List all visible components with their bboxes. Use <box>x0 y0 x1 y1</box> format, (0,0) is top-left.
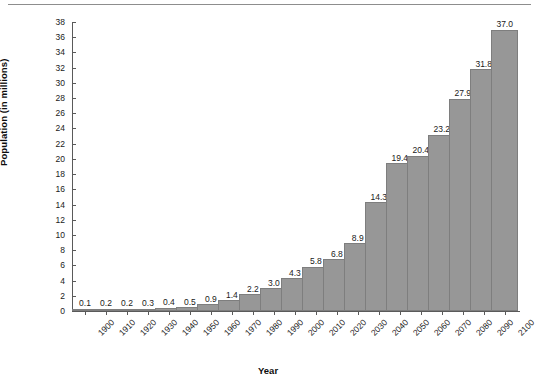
y-axis-tick-label: 32 <box>56 63 72 72</box>
x-axis-tick-mark <box>379 311 380 315</box>
bar-value-label: 14.3 <box>370 193 387 202</box>
x-axis-tick-label: 2080 <box>474 318 493 337</box>
x-axis-tick-mark <box>505 311 506 315</box>
y-axis-tick-mark <box>72 68 76 69</box>
x-axis-tick-label: 2060 <box>432 318 451 337</box>
x-axis-tick-label: 2020 <box>348 318 367 337</box>
x-axis-tick-label: 1940 <box>180 318 199 337</box>
bar-value-label: 0.9 <box>205 295 217 304</box>
y-axis-tick-label: 4 <box>60 276 72 285</box>
bar-value-label: 31.8 <box>475 60 492 69</box>
bar-value-label: 20.4 <box>412 146 429 155</box>
y-axis-tick-label: 28 <box>56 94 72 103</box>
x-axis-tick-mark <box>337 311 338 315</box>
y-axis-tick-label: 22 <box>56 139 72 148</box>
y-axis-tick-label: 18 <box>56 170 72 179</box>
x-axis-tick-mark <box>358 311 359 315</box>
x-axis-tick-mark <box>253 311 254 315</box>
x-axis-tick-label: 2090 <box>495 318 514 337</box>
y-axis-tick-label: 12 <box>56 215 72 224</box>
y-axis-tick-label: 14 <box>56 200 72 209</box>
x-axis-tick-mark <box>85 311 86 315</box>
y-axis-tick-mark <box>72 220 76 221</box>
y-axis-tick-mark <box>72 235 76 236</box>
x-axis-tick-label: 1990 <box>285 318 304 337</box>
bar-value-label: 0.2 <box>100 299 112 308</box>
y-axis-tick-mark <box>72 174 76 175</box>
bar-value-label: 23.2 <box>433 125 450 134</box>
y-axis-tick-mark <box>72 296 76 297</box>
bar-value-label: 0.4 <box>163 298 175 307</box>
x-axis-tick-mark <box>484 311 485 315</box>
y-axis-tick-mark <box>72 37 76 38</box>
x-axis-tick-mark <box>463 311 464 315</box>
y-axis-tick-mark <box>72 281 76 282</box>
bar-value-label: 0.1 <box>79 299 91 308</box>
bar-value-label: 0.5 <box>184 298 196 307</box>
top-divider-rule <box>8 4 531 5</box>
x-axis-tick-mark <box>316 311 317 315</box>
bar-chart-figure: Population (in millions) Year 0246810121… <box>0 0 539 387</box>
x-axis-tick-mark <box>148 311 149 315</box>
y-axis-tick-label: 10 <box>56 231 72 240</box>
x-axis-tick-mark <box>190 311 191 315</box>
y-axis-tick-mark <box>72 159 76 160</box>
y-axis-tick-mark <box>72 250 76 251</box>
bar-value-label: 1.4 <box>226 291 238 300</box>
x-axis-tick-label: 1910 <box>118 318 137 337</box>
y-axis-tick-label: 20 <box>56 155 72 164</box>
bar-value-label: 3.0 <box>268 279 280 288</box>
x-axis-tick-mark <box>232 311 233 315</box>
y-axis-tick-label: 6 <box>60 261 72 270</box>
bar-value-label: 8.9 <box>352 234 364 243</box>
y-axis-tick-mark <box>72 52 76 53</box>
x-axis-title: Year <box>258 365 278 376</box>
bar-value-label: 19.4 <box>391 154 408 163</box>
y-axis-tick-label: 16 <box>56 185 72 194</box>
x-axis-tick-label: 2030 <box>369 318 388 337</box>
y-axis-tick-mark <box>72 205 76 206</box>
y-axis-tick-mark <box>72 98 76 99</box>
bar-value-label: 0.3 <box>142 299 154 308</box>
y-axis-tick-label: 38 <box>56 18 72 27</box>
bar-value-label: 27.9 <box>454 89 471 98</box>
y-axis-tick-mark <box>72 113 76 114</box>
x-axis-tick-label: 2000 <box>306 318 325 337</box>
plot-area: 024681012141618202224262830323436380.10.… <box>72 22 520 311</box>
y-axis-tick-label: 2 <box>60 292 72 301</box>
y-axis-tick-mark <box>72 265 76 266</box>
bar-value-label: 6.8 <box>331 250 343 259</box>
x-axis-tick-label: 1980 <box>264 318 283 337</box>
y-axis-tick-mark <box>72 128 76 129</box>
y-axis-tick-mark <box>72 22 76 23</box>
y-axis-tick-label: 0 <box>60 307 72 316</box>
x-axis-tick-mark <box>106 311 107 315</box>
y-axis-tick-mark <box>72 144 76 145</box>
x-axis-tick-mark <box>400 311 401 315</box>
y-axis-tick-label: 36 <box>56 33 72 42</box>
bar-value-label: 37.0 <box>496 20 513 29</box>
x-axis-tick-label: 2100 <box>516 318 535 337</box>
x-axis-line <box>72 311 520 312</box>
bar-value-label: 2.2 <box>247 285 259 294</box>
y-axis-tick-label: 30 <box>56 79 72 88</box>
bar: 37.0 <box>491 30 518 311</box>
y-axis-title: Population (in millions) <box>0 0 9 166</box>
y-axis-tick-mark <box>72 189 76 190</box>
x-axis-tick-label: 1930 <box>159 318 178 337</box>
x-axis-tick-mark <box>211 311 212 315</box>
x-axis-tick-label: 2010 <box>327 318 346 337</box>
y-axis-tick-mark <box>72 311 76 312</box>
y-axis-tick-label: 26 <box>56 109 72 118</box>
x-axis-tick-label: 1970 <box>243 318 262 337</box>
y-axis-tick-mark <box>72 83 76 84</box>
bar-value-label: 5.8 <box>310 257 322 266</box>
bar-value-label: 4.3 <box>289 269 301 278</box>
x-axis-tick-label: 1960 <box>222 318 241 337</box>
x-axis-tick-mark <box>442 311 443 315</box>
y-axis-tick-label: 34 <box>56 48 72 57</box>
x-axis-tick-mark <box>274 311 275 315</box>
x-axis-tick-label: 1950 <box>201 318 220 337</box>
x-axis-tick-mark <box>295 311 296 315</box>
x-axis-tick-label: 2050 <box>411 318 430 337</box>
